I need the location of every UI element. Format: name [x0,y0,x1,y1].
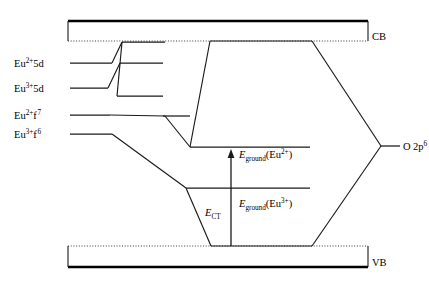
label-eu2-f7-element: Eu [14,110,26,121]
connector-eu3-f6-down [112,134,186,188]
label-eu3-f6-element: Eu [14,129,26,140]
label-eu3-5d-orbital: 5d [33,83,44,94]
label-eu2-5d-element: Eu [14,58,26,69]
label-eground-eu2-subscript: ground [245,155,266,163]
label-eground-eu3-charge: 3+ [281,197,289,205]
label-eu2-f7: Eu2+f7 [14,109,41,121]
label-eground-eu3-species: Eu [269,198,281,209]
label-ect-subscript: CT [211,213,221,221]
energy-level-diagram-figure: CB VB [0,0,429,290]
label-o2p6-exponent: 6 [424,140,428,148]
label-eu3-5d-element: Eu [14,83,26,94]
label-eu2-f7-exponent: 7 [37,109,41,117]
label-eground-eu2-charge: 2+ [281,148,289,156]
label-o2p6: O2p6 [403,140,428,152]
f-level-connectors-group [110,115,190,188]
label-eground-eu3: Eground(Eu3+) [238,197,293,211]
vb-label: VB [372,257,387,268]
label-eu3-f6-exponent: 6 [37,128,41,136]
label-eground-eu3-subscript: ground [245,204,266,212]
label-eu2-5d: Eu2+5d [14,57,45,69]
label-eground-eu2: Eground(Eu2+) [238,148,293,162]
conduction-band-group: CB [68,21,386,42]
label-eu2-5d-orbital: 5d [33,58,44,69]
center-level-lines-group [117,42,165,96]
cb-label: CB [372,31,386,42]
label-eground-eu2-species: Eu [269,149,281,160]
label-eu3-f6-charge: 3+ [26,128,34,136]
label-eu3-5d: Eu3+5d [14,82,45,94]
crossing-connectors-group [108,42,122,96]
hexagon-right-upper-edge [312,41,381,146]
ct-arrow-head [228,149,235,158]
hexagon-left-upper-edge [190,41,210,147]
connector-eu2-f7-center [110,115,165,116]
label-eu2-5d-charge: 2+ [26,57,34,65]
hexagon-right-lower-edge [312,146,381,246]
label-eu3-5d-charge: 3+ [26,82,34,90]
label-ect: ECT [204,207,221,221]
valence-band-group: VB [68,246,387,268]
label-eu3-f6: Eu3+f6 [14,128,41,140]
label-o2p6-element: O [403,141,411,152]
label-o2p6-orbital: 2p [413,141,424,152]
label-eu2-f7-charge: 2+ [26,109,34,117]
energy-diagram-canvas: CB VB [0,0,429,290]
charge-transfer-arrow-group [228,149,235,246]
left-level-lines-group [70,63,112,134]
connector-f7-to-eu2-ground [165,116,190,147]
